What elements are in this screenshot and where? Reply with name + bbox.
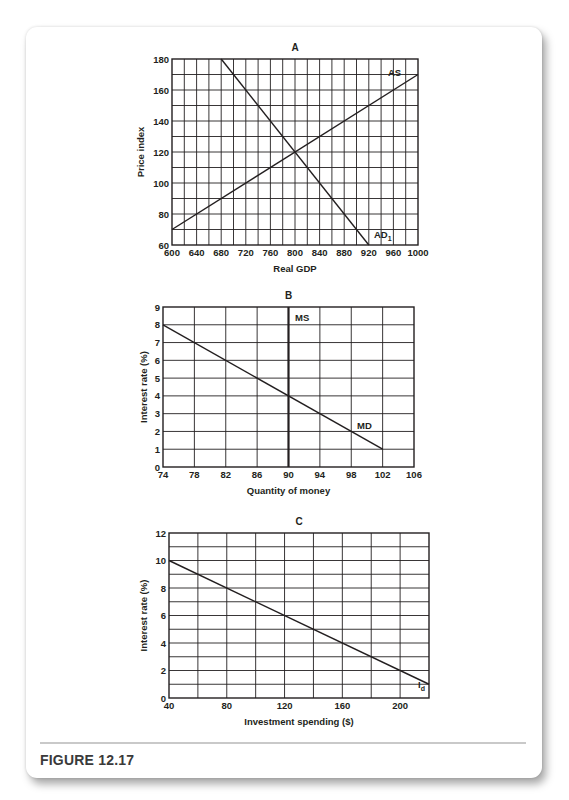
curve-id: [169, 561, 429, 685]
caption-divider: [40, 742, 526, 744]
svg-text:6: 6: [161, 610, 166, 621]
svg-text:10: 10: [155, 555, 166, 566]
svg-text:200: 200: [392, 700, 408, 711]
y-tick-labels: 024681012: [155, 528, 166, 704]
figure-label: FIGURE 12.17: [40, 752, 134, 768]
svg-text:12: 12: [155, 528, 166, 539]
x-axis-label: Investment spending ($): [244, 716, 353, 727]
svg-text:0: 0: [161, 693, 166, 704]
svg-text:4: 4: [161, 638, 167, 649]
x-tick-labels: 4080120160200: [164, 700, 408, 711]
grid: [169, 533, 429, 698]
y-axis-label: Interest rate (%): [138, 580, 149, 652]
panel-title: C: [295, 516, 302, 527]
svg-text:160: 160: [334, 700, 350, 711]
svg-text:8: 8: [161, 583, 166, 594]
chart-panel-c: 4080120160200024681012Investment spendin…: [0, 0, 569, 800]
svg-text:120: 120: [277, 700, 293, 711]
svg-text:80: 80: [221, 700, 232, 711]
svg-text:2: 2: [161, 665, 166, 676]
